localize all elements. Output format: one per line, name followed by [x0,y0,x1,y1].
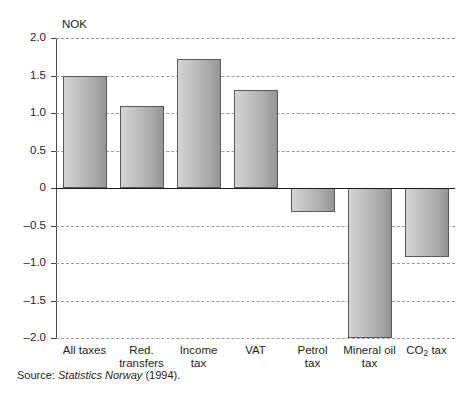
zero-line [56,188,455,189]
bar-chart-figure: NOK 2.01.51.00.50–0.5–1.0–1.5–2.0 All ta… [0,0,475,395]
y-axis-tick-label: 2.0 [0,32,46,44]
bar [291,188,335,212]
y-axis-tick-label: –1.0 [0,257,46,269]
y-axis-tick-label: 0 [0,182,46,194]
gridline [56,226,455,227]
y-axis-tick-label: 0.5 [0,145,46,157]
gridline [56,301,455,302]
y-axis-tick-label: –0.5 [0,220,46,232]
y-axis-tick-label: 1.0 [0,107,46,119]
y-axis-tick-label: –2.0 [0,332,46,344]
bar [234,90,278,188]
source-caption: Source: Statistics Norway (1994). [17,369,180,382]
gridline [56,38,455,39]
source-year: (1994). [145,369,180,381]
x-axis-label: CO2 tax [392,344,461,358]
bar [177,59,221,188]
bar [348,188,392,338]
bar [405,188,449,257]
plot-area [56,38,455,338]
y-axis-unit-label: NOK [62,19,87,31]
bar [63,76,107,189]
source-publisher: Statistics Norway [58,369,142,381]
source-prefix: Source: [17,369,55,381]
gridline [56,338,455,339]
gridline [56,263,455,264]
y-axis-tick-label: –1.5 [0,295,46,307]
gridline [56,76,455,77]
bar [120,106,164,189]
y-axis-tick-label: 1.5 [0,70,46,82]
